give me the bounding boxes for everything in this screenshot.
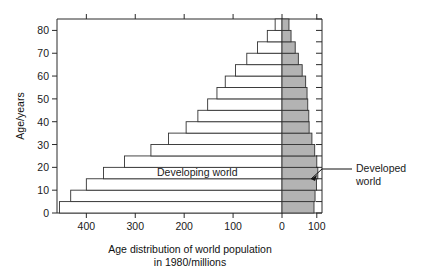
bar-developed-75-79 xyxy=(282,30,291,41)
bar-developed-80+ xyxy=(282,19,289,30)
bar-developing-50-54 xyxy=(217,87,282,98)
bar-developing-10-14 xyxy=(86,179,282,190)
developed-world-bars xyxy=(282,19,318,213)
ytick-label-30: 30 xyxy=(37,139,49,151)
xtick-left-200-label: 200 xyxy=(175,220,193,232)
bar-developed-50-54 xyxy=(282,87,307,98)
developing-world-label: Developing world xyxy=(157,166,238,178)
bar-developing-70-74 xyxy=(258,42,282,53)
x-axis-tick-labels: 4003002001000100 xyxy=(78,220,326,232)
y-axis-title: Age/years xyxy=(14,92,26,139)
ytick-label-20: 20 xyxy=(37,161,49,173)
bar-developed-0-4 xyxy=(282,202,314,213)
bar-developed-55-59 xyxy=(282,76,306,87)
bar-developing-75-79 xyxy=(267,30,282,41)
bar-developed-70-74 xyxy=(282,42,295,53)
bar-developing-25-29 xyxy=(151,145,282,156)
xtick-right-100-label: 100 xyxy=(308,220,326,232)
bar-developing-45-49 xyxy=(208,99,282,110)
bar-developed-30-34 xyxy=(282,133,312,144)
xtick-left-300-label: 300 xyxy=(126,220,144,232)
chart-canvas: 4003002001000100 01020304050607080 Age/y… xyxy=(0,0,421,278)
bar-developed-5-9 xyxy=(282,190,315,201)
developed-world-label-line1: Developed xyxy=(356,162,406,174)
bar-developed-40-44 xyxy=(282,110,309,121)
bar-developing-65-69 xyxy=(247,53,282,64)
bar-developing-60-64 xyxy=(236,65,282,76)
xtick-left-100-label: 100 xyxy=(224,220,242,232)
developed-world-label-line2: world xyxy=(355,175,381,187)
bar-developed-65-69 xyxy=(282,53,298,64)
xtick-left-0-label: 0 xyxy=(279,220,285,232)
bar-developed-10-14 xyxy=(282,179,316,190)
x-axis-title-line1: Age distribution of world population xyxy=(108,243,272,255)
x-axis-title-line2: in 1980/millions xyxy=(154,256,226,268)
ytick-label-0: 0 xyxy=(43,207,49,219)
ytick-label-50: 50 xyxy=(37,93,49,105)
ytick-label-70: 70 xyxy=(37,47,49,59)
bar-developed-60-64 xyxy=(282,65,302,76)
bar-developed-20-24 xyxy=(282,156,317,167)
bar-developing-0-4 xyxy=(59,202,282,213)
xtick-left-400-label: 400 xyxy=(78,220,96,232)
bar-developed-25-29 xyxy=(282,145,315,156)
bar-developing-80+ xyxy=(275,19,282,30)
ytick-label-40: 40 xyxy=(37,116,49,128)
ytick-label-80: 80 xyxy=(37,24,49,36)
bar-developing-5-9 xyxy=(71,190,282,201)
bar-developed-35-39 xyxy=(282,122,309,133)
developing-world-bars xyxy=(59,19,282,213)
ytick-label-10: 10 xyxy=(37,184,49,196)
bar-developing-55-59 xyxy=(225,76,282,87)
bar-developing-30-34 xyxy=(169,133,282,144)
y-axis-tick-labels: 01020304050607080 xyxy=(37,24,49,219)
population-pyramid-figure: 4003002001000100 01020304050607080 Age/y… xyxy=(0,0,421,278)
bar-developed-45-49 xyxy=(282,99,308,110)
bar-developing-35-39 xyxy=(186,122,282,133)
ytick-label-60: 60 xyxy=(37,70,49,82)
bar-developing-40-44 xyxy=(198,110,282,121)
